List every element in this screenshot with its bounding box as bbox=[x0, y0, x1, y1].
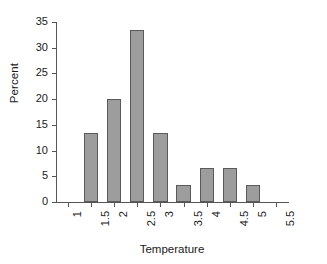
y-axis-tick-label: 10 bbox=[16, 144, 48, 157]
x-axis-tick bbox=[68, 203, 69, 207]
x-axis-title: Temperature bbox=[55, 243, 289, 255]
y-axis-tick bbox=[52, 202, 56, 203]
histogram-chart: Percent 05101520253035 11.522.533.544.55… bbox=[0, 0, 327, 264]
x-axis-tick-label: 4.5 bbox=[238, 203, 250, 218]
y-axis-tick-label: 15 bbox=[16, 118, 48, 131]
x-axis-tick bbox=[207, 203, 208, 207]
plot-area: 05101520253035 11.522.533.544.555.5 bbox=[56, 22, 288, 202]
x-axis-tick-label-text: 3 bbox=[163, 211, 175, 217]
x-axis-tick-label: 1 bbox=[71, 208, 83, 214]
x-axis-tick-label-text: 2 bbox=[117, 211, 129, 217]
x-axis-tick bbox=[114, 203, 115, 207]
x-axis-tick bbox=[184, 203, 185, 207]
y-axis-tick bbox=[52, 176, 56, 177]
y-axis-tick bbox=[52, 73, 56, 74]
y-axis-tick-label: 0 bbox=[16, 195, 48, 208]
x-axis-tick-label-text: 5.5 bbox=[284, 211, 296, 226]
y-axis-tick bbox=[52, 48, 56, 49]
y-axis-tick bbox=[52, 151, 56, 152]
x-axis-tick-label: 5 bbox=[256, 208, 268, 214]
x-axis-tick-label-text: 2.5 bbox=[145, 211, 157, 226]
x-axis-tick-label-text: 1.5 bbox=[98, 211, 110, 226]
x-axis-tick-label: 2.5 bbox=[145, 203, 157, 218]
x-axis-tick-label-text: 3.5 bbox=[191, 211, 203, 226]
x-axis-tick bbox=[276, 203, 277, 207]
y-axis-tick-label: 20 bbox=[16, 92, 48, 105]
bar bbox=[107, 99, 121, 202]
x-axis-tick-label: 5.5 bbox=[284, 203, 296, 218]
x-axis-tick-label-text: 4.5 bbox=[238, 211, 250, 226]
x-axis-tick-label: 3 bbox=[163, 208, 175, 214]
y-axis-tick bbox=[52, 99, 56, 100]
x-axis-tick bbox=[230, 203, 231, 207]
y-axis-tick-label: 25 bbox=[16, 66, 48, 79]
bar bbox=[130, 30, 144, 202]
x-axis-tick-label-text: 1 bbox=[71, 211, 83, 217]
y-axis-line bbox=[56, 22, 57, 203]
x-axis-tick-label: 4 bbox=[210, 208, 222, 214]
bar bbox=[200, 168, 214, 202]
bar bbox=[246, 185, 260, 202]
x-axis-tick-label-text: 4 bbox=[210, 211, 222, 217]
y-axis-tick-label: 5 bbox=[16, 169, 48, 182]
y-axis-tick bbox=[52, 22, 56, 23]
y-axis-tick-label: 30 bbox=[16, 41, 48, 54]
x-axis-tick-label: 3.5 bbox=[191, 203, 203, 218]
bar bbox=[223, 168, 237, 202]
x-axis-tick-label: 2 bbox=[117, 208, 129, 214]
x-axis-tick bbox=[253, 203, 254, 207]
bar bbox=[153, 133, 167, 202]
x-axis-tick bbox=[91, 203, 92, 207]
bar bbox=[84, 133, 98, 202]
bar bbox=[176, 185, 190, 202]
x-axis-tick-label-text: 5 bbox=[256, 211, 268, 217]
x-axis-tick-label: 1.5 bbox=[98, 203, 110, 218]
y-axis-tick-label: 35 bbox=[16, 15, 48, 28]
x-axis-tick bbox=[137, 203, 138, 207]
x-axis-tick bbox=[160, 203, 161, 207]
y-axis-tick bbox=[52, 125, 56, 126]
